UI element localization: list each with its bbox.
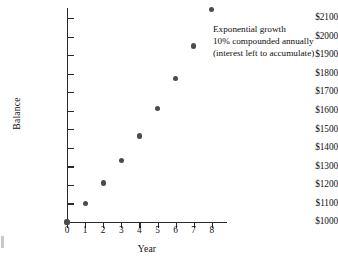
data-point bbox=[101, 180, 106, 185]
x-axis-title: Year bbox=[67, 243, 227, 254]
y-tick-label: $1400 bbox=[294, 143, 338, 152]
x-axis-line bbox=[67, 222, 227, 223]
y-tick-label: $1500 bbox=[294, 125, 338, 134]
page-margin-artifact bbox=[1, 236, 4, 248]
y-tick-label: $1800 bbox=[294, 69, 338, 78]
y-tick bbox=[67, 92, 74, 93]
y-tick bbox=[67, 18, 74, 19]
annotation-line-2: 10% compounded annually bbox=[213, 35, 314, 47]
y-tick-label: $1600 bbox=[294, 106, 338, 115]
y-tick-label: $2100 bbox=[294, 13, 338, 22]
y-tick bbox=[67, 37, 74, 38]
y-tick bbox=[67, 74, 74, 75]
data-point bbox=[64, 219, 69, 224]
y-tick bbox=[67, 129, 74, 130]
y-tick-label: $1100 bbox=[294, 199, 338, 208]
x-tick-label: 1 bbox=[78, 226, 92, 235]
data-point bbox=[155, 106, 160, 111]
y-tick-label: $1300 bbox=[294, 162, 338, 171]
x-tick-label: 8 bbox=[205, 226, 219, 235]
x-tick-label: 5 bbox=[151, 226, 165, 235]
scatter-chart: Balance Year $1000$1100$1200$1300$1400$1… bbox=[0, 0, 338, 265]
chart-annotation: Exponential growth 10% compounded annual… bbox=[213, 23, 314, 60]
y-axis-title: Balance bbox=[11, 84, 22, 144]
y-tick-label: $1200 bbox=[294, 180, 338, 189]
y-tick bbox=[67, 166, 74, 167]
y-tick bbox=[67, 111, 74, 112]
x-tick-label: 4 bbox=[132, 226, 146, 235]
data-point bbox=[191, 43, 196, 48]
data-point bbox=[137, 133, 142, 138]
x-tick-label: 7 bbox=[187, 226, 201, 235]
y-tick bbox=[67, 148, 74, 149]
x-tick-label: 6 bbox=[169, 226, 183, 235]
x-tick-label: 0 bbox=[60, 226, 74, 235]
annotation-line-3: (interest left to accumulate) bbox=[213, 47, 314, 59]
x-tick-label: 2 bbox=[96, 226, 110, 235]
y-tick bbox=[67, 203, 74, 204]
data-point bbox=[209, 7, 214, 12]
y-tick bbox=[67, 185, 74, 186]
y-tick-label: $1700 bbox=[294, 87, 338, 96]
y-tick bbox=[67, 55, 74, 56]
data-point bbox=[173, 76, 178, 81]
annotation-line-1: Exponential growth bbox=[213, 23, 314, 35]
y-tick-label: $1000 bbox=[294, 217, 338, 226]
data-point bbox=[83, 201, 88, 206]
x-tick-label: 3 bbox=[114, 226, 128, 235]
data-point bbox=[119, 158, 124, 163]
y-axis-line bbox=[67, 8, 68, 223]
